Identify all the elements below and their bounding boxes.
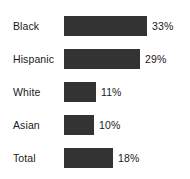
bar-track-total (64, 148, 113, 168)
bar-fill-total (64, 148, 113, 168)
value-label-white: 11% (101, 87, 122, 98)
bar-row-black: Black 33% (0, 15, 190, 37)
value-label-total: 18% (118, 153, 139, 164)
value-label-hispanic: 29% (145, 54, 166, 65)
category-label-asian: Asian (13, 120, 40, 131)
category-label-white: White (13, 87, 40, 98)
category-label-total: Total (13, 153, 36, 164)
category-label-hispanic: Hispanic (13, 54, 54, 65)
bar-track-black (64, 16, 147, 36)
bar-chart: Black 33% Hispanic 29% White 11% Asian (0, 0, 190, 179)
bar-track-white (64, 82, 96, 102)
bar-fill-white (64, 82, 96, 102)
value-label-black: 33% (152, 21, 173, 32)
bar-fill-hispanic (64, 49, 140, 69)
bar-row-asian: Asian 10% (0, 114, 190, 136)
bar-fill-asian (64, 115, 94, 135)
bar-fill-black (64, 16, 147, 36)
bar-track-hispanic (64, 49, 140, 69)
bar-row-hispanic: Hispanic 29% (0, 48, 190, 70)
bar-row-total: Total 18% (0, 147, 190, 169)
bar-track-asian (64, 115, 94, 135)
bar-row-white: White 11% (0, 81, 190, 103)
category-label-black: Black (13, 21, 39, 32)
bar-chart-rows: Black 33% Hispanic 29% White 11% Asian (0, 0, 190, 179)
value-label-asian: 10% (99, 120, 120, 131)
